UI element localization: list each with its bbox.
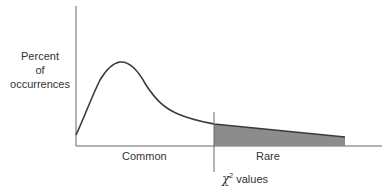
- y-axis-label: Percent of occurrences: [2, 49, 78, 91]
- y-label-line-2: of: [2, 63, 78, 77]
- superscript: 2: [229, 172, 233, 179]
- x-axis-label: χ2 values: [222, 172, 268, 186]
- y-label-line-3: occurrences: [2, 77, 78, 91]
- x-label-text: values: [236, 173, 268, 185]
- chart-canvas: [0, 0, 386, 194]
- region-label-rare: Rare: [256, 150, 280, 162]
- y-label-line-1: Percent: [2, 49, 78, 63]
- region-label-common: Common: [122, 150, 167, 162]
- distribution-curve: [76, 62, 345, 137]
